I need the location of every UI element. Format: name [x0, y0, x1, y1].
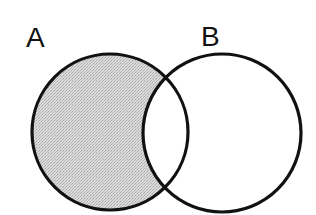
- venn-diagram: A B: [0, 0, 316, 215]
- set-label-b: B: [201, 23, 220, 51]
- venn-canvas: [0, 0, 316, 215]
- set-label-a: A: [26, 24, 45, 52]
